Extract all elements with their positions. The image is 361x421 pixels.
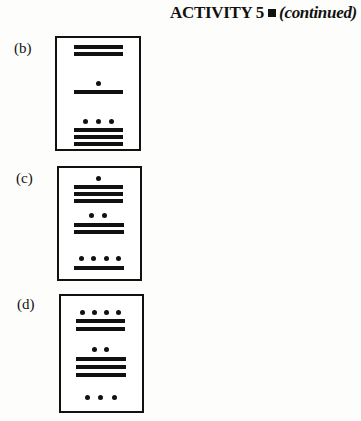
dot xyxy=(104,347,109,352)
bar xyxy=(76,373,126,377)
bar xyxy=(74,45,123,49)
dot xyxy=(85,395,90,400)
dot xyxy=(89,213,94,218)
bar xyxy=(74,128,123,132)
dot xyxy=(104,310,109,315)
bar xyxy=(74,52,123,56)
mayan-numeral-box-b xyxy=(55,36,141,151)
bar xyxy=(74,192,123,196)
page-header: ACTIVITY 5(continued) xyxy=(170,3,357,23)
bar xyxy=(76,357,126,361)
dot xyxy=(96,81,101,86)
square-bullet-icon xyxy=(268,9,276,17)
activity-title: ACTIVITY 5 xyxy=(170,3,264,22)
dot xyxy=(79,256,84,261)
bar xyxy=(76,327,125,331)
mayan-numeral-box-d xyxy=(59,294,144,413)
dot xyxy=(83,119,88,124)
problem-label-c: (c) xyxy=(16,170,33,187)
dot xyxy=(102,213,107,218)
problem-label-d: (d) xyxy=(17,296,35,313)
bar xyxy=(74,135,123,139)
activity-subtitle: (continued) xyxy=(279,3,357,22)
bar xyxy=(74,199,123,203)
dot xyxy=(109,119,114,124)
dot xyxy=(96,119,101,124)
dot xyxy=(80,310,85,315)
dot xyxy=(104,256,109,261)
bar xyxy=(74,90,123,94)
bar xyxy=(74,142,123,146)
bar xyxy=(74,230,124,234)
problem-label-b: (b) xyxy=(14,40,32,57)
bar xyxy=(74,223,124,227)
dot xyxy=(91,256,96,261)
bar xyxy=(74,185,123,189)
dot xyxy=(92,347,97,352)
bar xyxy=(76,319,125,323)
dot xyxy=(96,176,101,181)
bar xyxy=(76,365,126,369)
dot xyxy=(92,310,97,315)
dot xyxy=(116,310,121,315)
dot xyxy=(98,395,103,400)
bar xyxy=(74,266,124,270)
dot xyxy=(116,256,121,261)
dot xyxy=(112,395,117,400)
mayan-numeral-box-c xyxy=(57,166,142,281)
